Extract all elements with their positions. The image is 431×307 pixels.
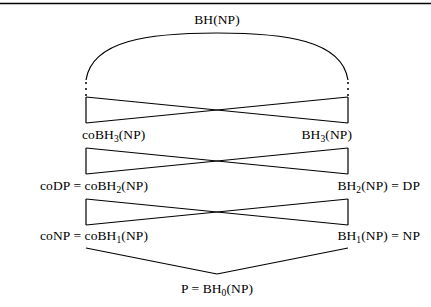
arc-bh-np <box>86 33 348 80</box>
node-label-cobh3-np: coBH3(NP) <box>82 128 145 142</box>
vertical-ellipsis-left-icon <box>85 82 88 100</box>
node-label-p-bh0-np: P = BH0(NP) <box>181 282 253 296</box>
bh2-tail: (NP) = DP <box>361 178 420 193</box>
bh1-prefix: BH <box>337 228 356 243</box>
node-label-bh-np: BH(NP) <box>194 13 240 27</box>
codp-prefix: coDP = coBH <box>40 178 116 193</box>
cobh3-base: coBH <box>82 127 114 142</box>
cobh3-sub: 3 <box>114 134 119 144</box>
node-label-bh3-np: BH3(NP) <box>302 128 352 142</box>
conp-sub: 1 <box>116 235 121 245</box>
conp-tail: (NP) <box>121 228 148 243</box>
p-sub: 0 <box>222 288 227 298</box>
hierarchy-diagram <box>0 0 431 307</box>
bh3-base: BH <box>302 127 321 142</box>
bh3-tail: (NP) <box>325 127 352 142</box>
node-label-bh2-np-dp: BH2(NP) = DP <box>337 179 420 193</box>
bowtie-2 <box>86 148 348 174</box>
vee-to-p <box>86 248 348 274</box>
cobh3-tail: (NP) <box>119 127 146 142</box>
node-label-bh1-np-np: BH1(NP) = NP <box>337 229 420 243</box>
codp-sub: 2 <box>116 185 121 195</box>
bh2-prefix: BH <box>337 178 356 193</box>
p-prefix: P = BH <box>181 281 222 296</box>
p-tail: (NP) <box>226 281 253 296</box>
bh1-tail: (NP) = NP <box>361 228 420 243</box>
bowtie-3 <box>86 97 348 123</box>
node-label-conp-cobh1-np: coNP = coBH1(NP) <box>40 229 148 243</box>
bh1-sub: 1 <box>356 235 361 245</box>
vertical-ellipsis-right-icon <box>347 82 350 100</box>
bowtie-1 <box>86 199 348 225</box>
node-label-codp-cobh2-np: coDP = coBH2(NP) <box>40 179 148 193</box>
bh2-sub: 2 <box>356 185 361 195</box>
bh3-sub: 3 <box>320 134 325 144</box>
codp-tail: (NP) <box>121 178 148 193</box>
conp-prefix: coNP = coBH <box>40 228 116 243</box>
figure-canvas: BH(NP) coBH3(NP) BH3(NP) coDP = coBH2(NP… <box>0 0 431 307</box>
